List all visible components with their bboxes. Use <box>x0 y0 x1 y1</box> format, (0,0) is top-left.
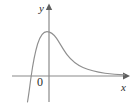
x-axis-label: x <box>121 82 126 93</box>
function-graph-figure: y x 0 <box>0 0 134 103</box>
x-axis-arrowhead <box>123 73 130 80</box>
origin-label: 0 <box>37 76 43 88</box>
graph-canvas <box>0 0 134 103</box>
y-axis-label: y <box>39 3 44 14</box>
plot-curve-group <box>28 32 125 102</box>
y-axis-arrowhead <box>46 4 52 11</box>
function-curve <box>28 32 125 102</box>
